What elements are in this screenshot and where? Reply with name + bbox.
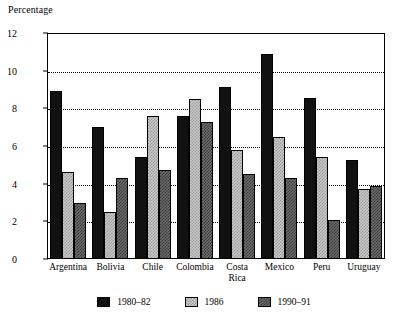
y-axis-tick-label: 2 (0, 216, 17, 227)
bar-group (216, 33, 258, 259)
chart-legend: 1980–8219861990–91 (0, 297, 408, 307)
legend-label: 1990–91 (278, 297, 311, 307)
x-axis-label: Peru (301, 262, 343, 284)
x-axis-label: Bolivia (89, 262, 131, 284)
legend-item: 1980–82 (97, 297, 150, 307)
x-axis-label: Chile (132, 262, 174, 284)
bar (62, 172, 74, 259)
bar (177, 116, 189, 259)
legend-item: 1986 (185, 297, 224, 307)
bar (74, 203, 86, 260)
bar-chart: Percentage 024681012 ArgentinaBoliviaChi… (0, 0, 408, 327)
bar-group (47, 33, 89, 259)
x-axis-labels: ArgentinaBoliviaChileColombiaCosta RicaM… (47, 262, 385, 284)
bar (231, 150, 243, 259)
bar-group (132, 33, 174, 259)
bar (92, 127, 104, 259)
bar-group (258, 33, 300, 259)
y-axis-tick-label: 0 (0, 254, 17, 265)
x-axis-label: Uruguay (343, 262, 385, 284)
bar (261, 54, 273, 259)
legend-swatch (97, 297, 110, 307)
y-axis-tick-label: 10 (0, 65, 17, 76)
legend-item: 1990–91 (258, 297, 311, 307)
legend-swatch (185, 297, 198, 307)
bar (104, 212, 116, 259)
bar-group (89, 33, 131, 259)
x-axis-label: Colombia (174, 262, 216, 284)
y-axis-tick-label: 6 (0, 141, 17, 152)
bar (243, 174, 255, 259)
bar-group (174, 33, 216, 259)
bar (189, 99, 201, 259)
bar (147, 116, 159, 259)
legend-swatch (258, 297, 271, 307)
bar (285, 178, 297, 259)
x-axis-label: Argentina (47, 262, 89, 284)
bar (316, 157, 328, 259)
chart-axis-title: Percentage (8, 4, 53, 15)
bar (219, 87, 231, 259)
bar-group (301, 33, 343, 259)
legend-label: 1980–82 (117, 297, 150, 307)
y-axis-tick-label: 4 (0, 178, 17, 189)
x-axis-label: Costa Rica (216, 262, 258, 284)
bar (50, 91, 62, 259)
bar (358, 189, 370, 259)
y-axis-tick-label: 12 (0, 28, 17, 39)
x-axis-label: Mexico (258, 262, 300, 284)
bar (370, 186, 382, 259)
bar (201, 122, 213, 259)
bar (346, 160, 358, 259)
bar-group (343, 33, 385, 259)
bar (116, 178, 128, 259)
bar-groups (47, 33, 385, 259)
legend-label: 1986 (205, 297, 224, 307)
bar (273, 137, 285, 259)
bar (135, 157, 147, 259)
y-axis-tick-label: 8 (0, 103, 17, 114)
bar (304, 98, 316, 259)
bar (328, 220, 340, 259)
bar (159, 170, 171, 259)
